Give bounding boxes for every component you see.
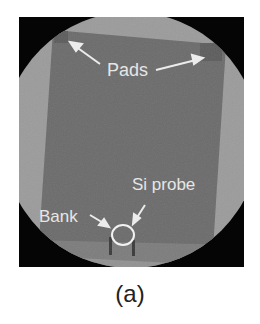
figure-caption: (a) bbox=[0, 280, 260, 308]
pads-label: Pads bbox=[107, 62, 148, 79]
bank-label: Bank bbox=[39, 208, 78, 225]
figure: Pads Si probe Bank (a) bbox=[0, 0, 260, 324]
si-probe-label: Si probe bbox=[132, 176, 195, 193]
micrograph-image bbox=[19, 17, 244, 267]
